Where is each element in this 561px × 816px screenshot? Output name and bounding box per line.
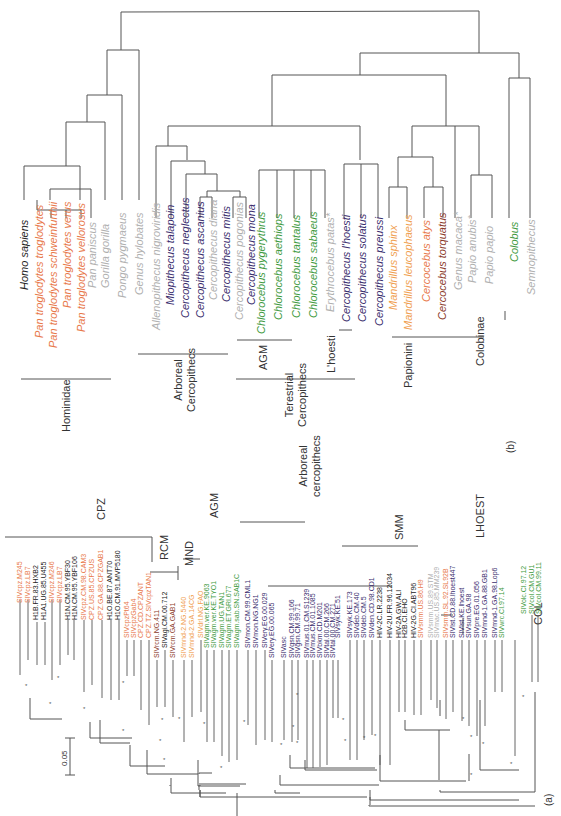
sequence-label: SIVagm.ver.KE.9063 [203, 584, 210, 648]
svg-text:*: * [159, 738, 162, 744]
sequence-label: SIVagm.ET.GRI.677 [225, 585, 232, 648]
panel-a-tree: *** *** *** *** *** *** *** *** *** [0, 0, 561, 816]
sequence-label: SIVdeb.CM.40 [353, 592, 360, 638]
sequence-label: SIVcpz.M246 [48, 561, 55, 603]
sequence-label: SIVbkm.CD.M201 [316, 602, 323, 658]
svg-text:*: * [203, 721, 206, 727]
sequence-label: SIVcol.CM.99.11 [535, 562, 542, 614]
sequence-label: SIVmon.NG.NG1 [252, 594, 259, 648]
sequence-label: SIVsyk.KE.51 [334, 595, 341, 638]
sequence-label: SIVmnd-1.GA.88.GB1 [481, 569, 488, 638]
sequence-label: SIVcpz.LB7 [24, 566, 31, 603]
sequence-label: SIVcpzGab4 [130, 599, 137, 638]
sequence-label: SIVlst.KE.lhoest [458, 588, 465, 638]
sequence-label: H1O.BE.87.ANT70 [106, 561, 113, 620]
svg-text:*: * [83, 706, 86, 712]
sequence-label: SIVery.EG.00.065 [268, 602, 275, 658]
sequence-label: SIVrcm.GA.GAB1 [169, 603, 176, 658]
sequence-label: SIVagm.UG.TAN1 [218, 592, 225, 648]
svg-text:*: * [178, 716, 181, 722]
clade-label-rcm: RCM [158, 535, 171, 560]
clade-label-cpz: CPZ [95, 498, 108, 520]
sequence-label: H1N.CM.95.YBF106 [71, 556, 78, 620]
sequence-label: SIVmnd-1.GA.98.Lop6 [491, 568, 498, 638]
sequence-label: SIVcpzPt64 [123, 601, 130, 638]
svg-text:*: * [122, 728, 125, 734]
svg-text:*: * [462, 716, 465, 722]
sequence-label: SIVgsn.CM.99.71 [294, 603, 301, 658]
sequence-label: H1B.FR.83.HXB2 [32, 565, 39, 620]
svg-text:*: * [296, 740, 299, 746]
sequence-label: CPZ.CD.CPZANT [137, 582, 144, 638]
svg-text:*: * [49, 701, 52, 707]
svg-text:*: * [122, 680, 125, 686]
svg-text:*: * [374, 733, 377, 739]
sequence-label: SIVden.CD.98.CD1 [368, 577, 375, 638]
svg-text:*: * [280, 742, 283, 748]
sequence-label: SIVagm.ver.KE.TYO1 [210, 581, 217, 648]
svg-text:*: * [163, 757, 166, 763]
svg-text:*: * [296, 692, 299, 698]
sequence-label: SIVcpz.LB7 [56, 566, 63, 603]
svg-text:*: * [344, 738, 347, 744]
sequence-label: SIVagi.CM.00.712 [161, 592, 168, 648]
sequence-label: SIVsyk.KE.173 [346, 591, 353, 638]
sequence-label: SIVcol.CM.GU1 [528, 565, 535, 614]
scale-bar-label: 0.05 [60, 750, 69, 766]
sequence-label: SIVolc.CI.97.12 [520, 566, 527, 614]
sequence-label: SIVpre.EG.01.056 [473, 581, 480, 638]
sequence-label: CPZ.TZ.SIVcpzTAN1 [145, 572, 152, 638]
panel-label-a: (a) [543, 794, 554, 806]
clade-label-agm: AGM [208, 493, 221, 518]
sequence-label: HIV-2U.FR.96.12034 [386, 573, 393, 638]
svg-text:*: * [482, 741, 485, 747]
sequence-label: H1O.CM.91.MVP5180 [114, 550, 121, 620]
sequence-label: H1A1.UG.85.U455 [40, 562, 47, 620]
sequence-label: CPZ.US.85.CPZUS [88, 559, 95, 620]
svg-text:*: * [342, 717, 345, 723]
sequence-label: SIVsmm.SL.92.SL92B [442, 568, 449, 638]
svg-text:*: * [470, 772, 473, 778]
sequence-label: CPZ.GA.88.CPZGAB1 [97, 550, 104, 620]
sequence-label: SIVrcm.NG.411 [153, 610, 160, 658]
sequence-label: SIVsun.GA.98 [465, 594, 472, 638]
sequence-label: SIVasc [280, 636, 287, 658]
sequence-label: H1N.CM.95.YBF30 [64, 560, 71, 620]
svg-text:*: * [57, 675, 60, 681]
sequence-label: SIVcpz.M245 [16, 561, 23, 603]
clade-label-lhoest: LHOEST [474, 494, 487, 538]
svg-text:*: * [25, 683, 28, 689]
sequence-label: SIVmus.CM.01.1085 [309, 593, 316, 658]
clade-label-mnd: MND [183, 541, 196, 566]
sequence-label: SIVmnd-2.NG.5440 [180, 597, 187, 658]
clade-label-smm: SMM [393, 514, 406, 540]
sequence-label: SIVsmm.US.86.H9 [417, 579, 424, 638]
sequence-label: HIV-2C.LR.2238 [376, 587, 383, 638]
svg-text:*: * [220, 765, 223, 771]
sequence-label: SIVagm.sab.SN.SAB1C [233, 574, 240, 648]
sequence-label: SIVmon.CM.99.CML1 [244, 580, 251, 648]
clade-label-arboreal-cercopithecs: Arboreal cercopithecs [297, 427, 323, 505]
sequence-label: HIV-2G.CI.ABT96 [410, 583, 417, 638]
svg-text:*: * [510, 761, 513, 767]
svg-text:*: * [292, 724, 295, 730]
sequence-label: SIVery.EG.00.029 [261, 592, 268, 648]
svg-text:*: * [470, 734, 473, 740]
svg-text:*: * [243, 719, 246, 725]
sequence-label: SIVdeb.CM.5 [360, 596, 367, 638]
sequence-label: H2B.CI.EHO [401, 598, 408, 638]
sequence-label: SIVcpz.CM.98.CAM3 [80, 554, 87, 620]
svg-text:*: * [522, 694, 525, 700]
svg-text:*: * [363, 735, 366, 741]
sequence-label: SIVmac.US.85.MM239 [433, 567, 440, 638]
sequence-label: SIVmnd-2.GA.14CG [188, 595, 195, 658]
svg-text:*: * [161, 717, 164, 723]
sequence-label: SIVwrc.CI.97.14 [498, 587, 505, 638]
sequence-label: SIVlst.CD.88.lhoest447 [449, 566, 456, 638]
